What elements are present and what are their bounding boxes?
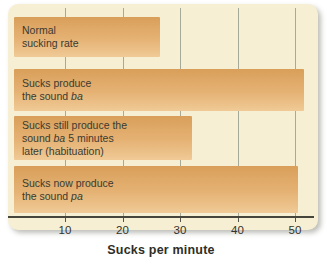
tick-label: 50 bbox=[280, 224, 310, 236]
x-axis-title: Sucks per minute bbox=[8, 243, 314, 257]
tick-label: 40 bbox=[223, 224, 253, 236]
bar-label-line: Sucks now produce bbox=[22, 177, 298, 190]
tick-label: 10 bbox=[50, 224, 80, 236]
bar-label-line: sucking rate bbox=[22, 37, 160, 50]
tick-mark bbox=[65, 218, 66, 222]
bar-label-line: Normal bbox=[22, 24, 160, 37]
habituation-bar-chart-figure: Normalsucking rateSucks producethe sound… bbox=[0, 0, 334, 266]
bar-label-line: later (habituation) bbox=[22, 145, 192, 158]
bar-label-line: the sound ba bbox=[22, 90, 304, 103]
tick-mark bbox=[295, 218, 296, 222]
tick-mark bbox=[238, 218, 239, 222]
bar: Sucks producethe sound ba bbox=[14, 69, 304, 111]
bar-label-line: the sound pa bbox=[22, 190, 298, 203]
bar-label-line: sound ba 5 minutes bbox=[22, 132, 192, 145]
x-axis-line bbox=[8, 216, 314, 218]
tick-mark bbox=[180, 218, 181, 222]
bar-label-line: Sucks still produce the bbox=[22, 119, 192, 132]
tick-label: 20 bbox=[108, 224, 138, 236]
tick-label: 30 bbox=[165, 224, 195, 236]
bar-label-line: Sucks produce bbox=[22, 77, 304, 90]
bar: Sucks still produce thesound ba 5 minute… bbox=[14, 116, 192, 160]
bar: Normalsucking rate bbox=[14, 17, 160, 57]
bar: Sucks now producethe sound pa bbox=[14, 166, 298, 213]
tick-mark bbox=[123, 218, 124, 222]
